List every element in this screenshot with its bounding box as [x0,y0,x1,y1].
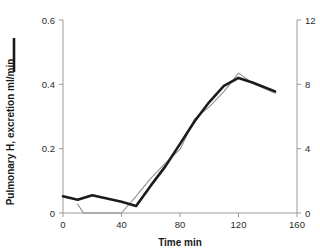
left-tick-label-2: 0.4 [42,79,55,90]
x-tick-label-3: 120 [231,219,247,230]
x-axis-ticks [63,213,297,217]
left-tick-label-1: 0.2 [42,143,55,154]
x-tick-label-0: 0 [60,219,65,230]
series-line-primary [63,78,275,206]
x-axis-title: Time min [158,237,202,248]
right-axis-tick-labels: 0 4 8 12 [305,15,316,219]
right-tick-label-1: 4 [305,143,310,154]
series-line-secondary [78,73,275,213]
left-tick-label-3: 0.6 [42,15,55,26]
x-axis-tick-labels: 0 40 80 120 160 [60,219,305,230]
right-tick-label-0: 0 [305,208,310,219]
x-tick-label-4: 160 [289,219,305,230]
right-tick-label-3: 12 [305,15,316,26]
right-axis-ticks [297,20,301,213]
left-tick-label-0: 0 [50,208,55,219]
x-tick-label-1: 40 [116,219,127,230]
line-chart: 0 0.2 0.4 0.6 0 4 8 12 0 40 [0,0,320,252]
left-axis-tick-labels: 0 0.2 0.4 0.6 [42,15,55,219]
right-tick-label-2: 8 [305,79,310,90]
x-tick-label-2: 80 [175,219,186,230]
y-axis-title: Pulmonary H, excretion ml/min [5,59,16,206]
chart-container: 0 0.2 0.4 0.6 0 4 8 12 0 40 [0,0,320,252]
left-axis-ticks [59,20,63,213]
